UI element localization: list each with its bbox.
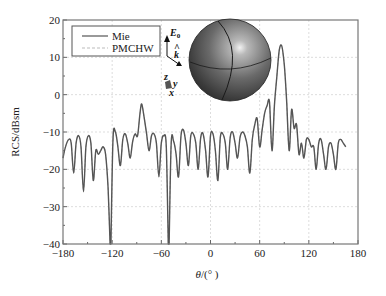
x-tick-label: 60 <box>254 247 266 259</box>
x-axis-title: θ/(° ) <box>196 268 219 281</box>
y-axis-title: RCS/dBsm <box>9 107 21 157</box>
x-tick-label: 0 <box>208 247 214 259</box>
x-tick-label: 120 <box>301 247 318 259</box>
x-tick-labels: −180−120−60060120180 <box>52 247 367 259</box>
sphere-inset: E0 k ^ z y x <box>163 19 271 101</box>
y-tick-label: −40 <box>43 238 61 250</box>
y-tick-labels: 20100−10−20−30−40 <box>43 14 61 250</box>
y-tick-label: 0 <box>55 89 61 101</box>
z-axis-label: z <box>163 71 168 82</box>
sphere-illustration <box>189 19 271 101</box>
x-tick-label: 180 <box>350 247 367 259</box>
legend: Mie PMCHW <box>72 26 160 56</box>
k-arrowhead-icon <box>176 61 182 66</box>
legend-pmchw-label: PMCHW <box>112 42 154 54</box>
x-axis-label: x <box>168 87 174 98</box>
k-hat: ^ <box>174 42 180 53</box>
y-tick-label: 20 <box>49 14 61 26</box>
y-tick-label: −30 <box>43 201 61 213</box>
y-tick-label: 10 <box>49 51 61 63</box>
y-tick-label: −10 <box>43 126 61 138</box>
x-axis-unit: /(° ) <box>201 268 219 281</box>
legend-mie-label: Mie <box>112 30 130 42</box>
x-tick-label: −60 <box>153 247 171 259</box>
y-tick-label: −20 <box>43 163 61 175</box>
x-tick-label: −120 <box>101 247 124 259</box>
e0-label: E0 <box>169 27 181 40</box>
rcs-chart: −180−120−60060120180 20100−10−20−30−40 R… <box>0 0 386 296</box>
